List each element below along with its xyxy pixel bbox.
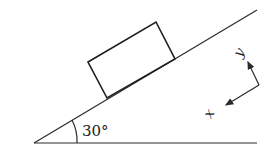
- y-axis-label: y: [229, 44, 248, 61]
- x-axis-label: x: [200, 106, 218, 121]
- incline-diagram: 30° y x: [0, 0, 277, 150]
- block: [88, 22, 175, 98]
- angle-label: 30°: [82, 122, 109, 140]
- y-axis-arrow: [248, 62, 259, 85]
- angle-arc: [72, 120, 77, 143]
- x-axis-arrow: [226, 85, 259, 105]
